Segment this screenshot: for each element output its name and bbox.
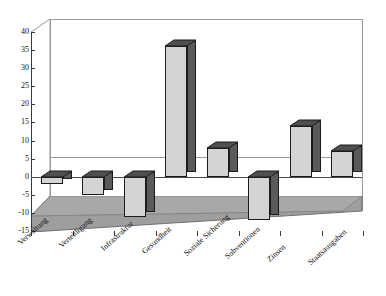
x-axis-label: Staatsausgaben xyxy=(306,227,348,266)
x-axis-label: Verwaltung xyxy=(16,215,49,246)
x-axis-label: Soziale Sicherung xyxy=(182,212,231,257)
x-axis-labels: VerwaltungVerteidigungInfrastrukturGesun… xyxy=(0,0,386,296)
bar-chart: 4035302520151050-5-10-15 VerwaltungVerte… xyxy=(0,0,386,296)
x-axis-label: Infrastruktur xyxy=(99,219,135,253)
x-axis-label: Gesundheit xyxy=(140,225,173,256)
x-axis-label: Zinsen xyxy=(265,243,287,264)
x-axis-label: Verteidigung xyxy=(57,216,94,250)
x-axis-label: Subventionen xyxy=(223,225,262,261)
